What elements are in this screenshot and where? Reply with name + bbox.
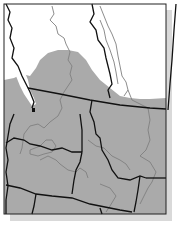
map-svg bbox=[0, 0, 192, 228]
island-marker bbox=[32, 108, 35, 112]
range-map bbox=[0, 0, 192, 228]
